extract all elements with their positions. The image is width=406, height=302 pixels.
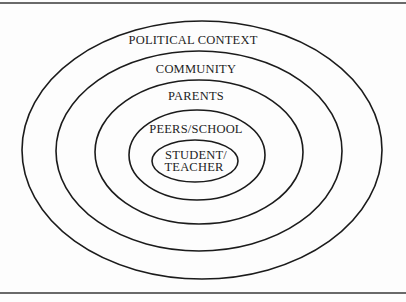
label-parents: PARENTS xyxy=(168,90,224,103)
label-community: COMMUNITY xyxy=(156,63,236,76)
label-political-context: POLITICAL CONTEXT xyxy=(129,34,258,47)
label-peers-school: PEERS/SCHOOL xyxy=(149,123,242,136)
label-teacher: TEACHER xyxy=(164,161,223,174)
diagram-frame: POLITICAL CONTEXT COMMUNITY PARENTS PEER… xyxy=(0,0,406,302)
